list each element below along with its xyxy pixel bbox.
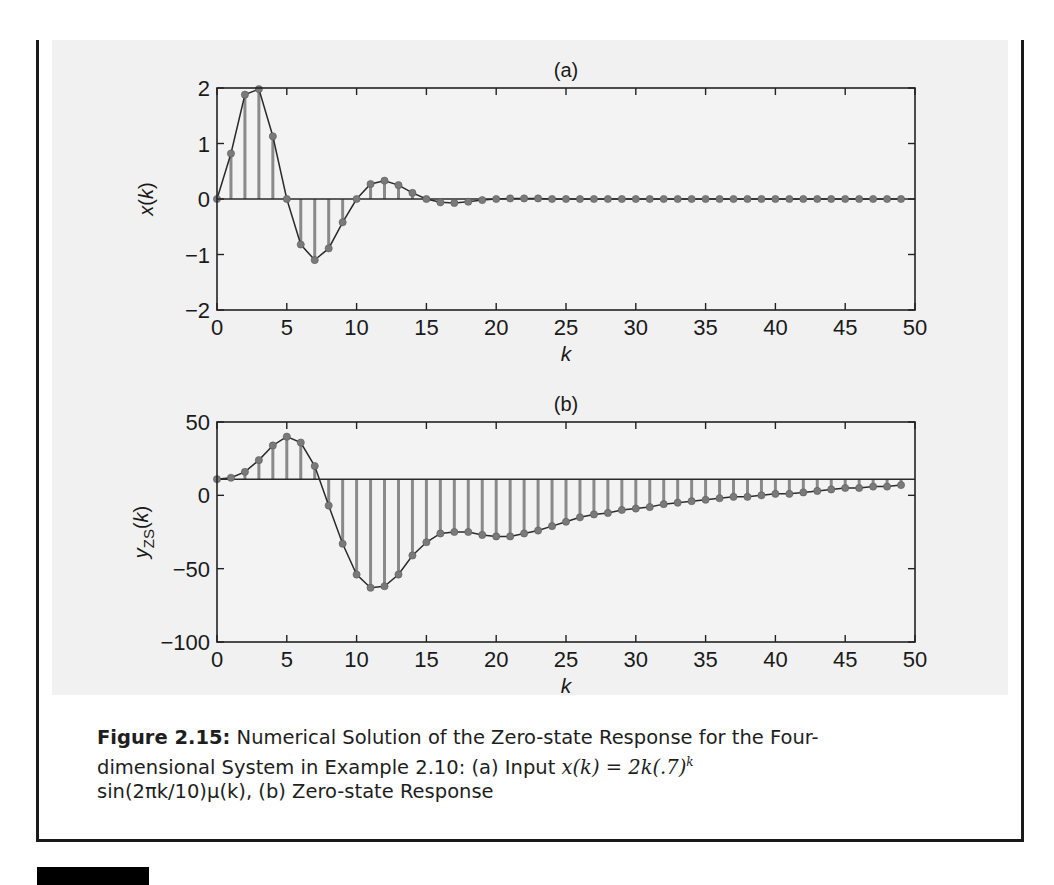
x-tick-label: 5 bbox=[281, 315, 293, 340]
data-point bbox=[674, 499, 681, 506]
x-tick-label: 15 bbox=[414, 647, 438, 672]
y-tick-label: 50 bbox=[186, 410, 210, 435]
data-point bbox=[883, 195, 890, 202]
data-point bbox=[269, 442, 276, 449]
data-point bbox=[688, 195, 695, 202]
data-point bbox=[409, 189, 416, 196]
data-point bbox=[786, 195, 793, 202]
data-point bbox=[437, 530, 444, 537]
data-point bbox=[786, 490, 793, 497]
x-tick-label: 45 bbox=[833, 647, 857, 672]
data-point bbox=[493, 533, 500, 540]
data-point bbox=[283, 195, 290, 202]
data-point bbox=[241, 468, 248, 475]
data-point bbox=[772, 490, 779, 497]
x-tick-label: 0 bbox=[211, 647, 223, 672]
data-point bbox=[646, 503, 653, 510]
data-point bbox=[269, 133, 276, 140]
data-point bbox=[856, 195, 863, 202]
x-tick-label: 5 bbox=[281, 647, 293, 672]
data-point bbox=[534, 195, 541, 202]
data-point bbox=[283, 433, 290, 440]
data-point bbox=[227, 474, 234, 481]
caption-line-3: sin(2πk/10)μ(k), (b) Zero-state Response bbox=[97, 780, 494, 803]
data-point bbox=[842, 484, 849, 491]
data-point bbox=[297, 439, 304, 446]
data-point bbox=[353, 195, 360, 202]
y-tick-label: 2 bbox=[198, 76, 210, 101]
y-tick-label: −50 bbox=[173, 557, 210, 582]
y-tick-label: −100 bbox=[160, 630, 210, 655]
data-point bbox=[744, 493, 751, 500]
x-tick-label: 30 bbox=[624, 315, 648, 340]
data-point bbox=[828, 195, 835, 202]
data-point bbox=[814, 195, 821, 202]
data-point bbox=[325, 502, 332, 509]
data-point bbox=[507, 195, 514, 202]
data-point bbox=[562, 518, 569, 525]
data-point bbox=[744, 195, 751, 202]
x-axis-label: k bbox=[561, 674, 573, 697]
x-tick-label: 20 bbox=[484, 315, 508, 340]
caption-math-input: x(k) = 2k(.7) bbox=[562, 756, 687, 779]
data-point bbox=[674, 195, 681, 202]
data-point bbox=[255, 86, 262, 93]
plot-b: 05101520253035404550−100−50050(b)kyZS(k) bbox=[130, 393, 927, 697]
data-point bbox=[618, 195, 625, 202]
data-point bbox=[311, 462, 318, 469]
plot-a: 05101520253035404550−2−1012(a)kx(k) bbox=[135, 59, 927, 365]
data-point bbox=[870, 483, 877, 490]
x-tick-label: 35 bbox=[693, 315, 717, 340]
data-point bbox=[730, 195, 737, 202]
data-point bbox=[842, 195, 849, 202]
data-point bbox=[409, 552, 416, 559]
x-tick-label: 45 bbox=[833, 315, 857, 340]
data-point bbox=[646, 195, 653, 202]
data-point bbox=[632, 505, 639, 512]
data-point bbox=[576, 195, 583, 202]
data-point bbox=[423, 539, 430, 546]
data-point bbox=[548, 523, 555, 530]
data-point bbox=[800, 489, 807, 496]
data-point bbox=[311, 256, 318, 263]
data-point bbox=[465, 528, 472, 535]
data-point bbox=[758, 195, 765, 202]
data-point bbox=[465, 198, 472, 205]
data-point bbox=[548, 195, 555, 202]
data-point bbox=[632, 195, 639, 202]
x-tick-label: 30 bbox=[624, 647, 648, 672]
data-point bbox=[604, 509, 611, 516]
data-point bbox=[758, 492, 765, 499]
data-point bbox=[618, 506, 625, 513]
y-tick-label: 0 bbox=[198, 187, 210, 212]
data-point bbox=[479, 197, 486, 204]
plot-title: (b) bbox=[554, 393, 578, 415]
data-point bbox=[534, 527, 541, 534]
data-point bbox=[297, 241, 304, 248]
x-tick-label: 10 bbox=[344, 315, 368, 340]
data-point bbox=[883, 483, 890, 490]
data-point bbox=[702, 496, 709, 503]
plot-title: (a) bbox=[554, 59, 578, 81]
x-tick-label: 25 bbox=[554, 315, 578, 340]
data-point bbox=[339, 540, 346, 547]
data-point bbox=[590, 195, 597, 202]
y-tick-label: 0 bbox=[198, 483, 210, 508]
data-point bbox=[451, 528, 458, 535]
data-point bbox=[227, 150, 234, 157]
data-point bbox=[381, 583, 388, 590]
caption-line-2: dimensional System in Example 2.10: (a) … bbox=[97, 756, 562, 779]
data-point bbox=[562, 195, 569, 202]
data-point bbox=[255, 457, 262, 464]
data-point bbox=[604, 195, 611, 202]
data-point bbox=[870, 195, 877, 202]
data-point bbox=[576, 514, 583, 521]
data-point bbox=[353, 571, 360, 578]
data-point bbox=[772, 195, 779, 202]
data-point bbox=[325, 245, 332, 252]
x-tick-label: 40 bbox=[763, 315, 787, 340]
data-point bbox=[241, 91, 248, 98]
data-point bbox=[688, 498, 695, 505]
x-tick-label: 50 bbox=[903, 315, 927, 340]
data-point bbox=[716, 195, 723, 202]
